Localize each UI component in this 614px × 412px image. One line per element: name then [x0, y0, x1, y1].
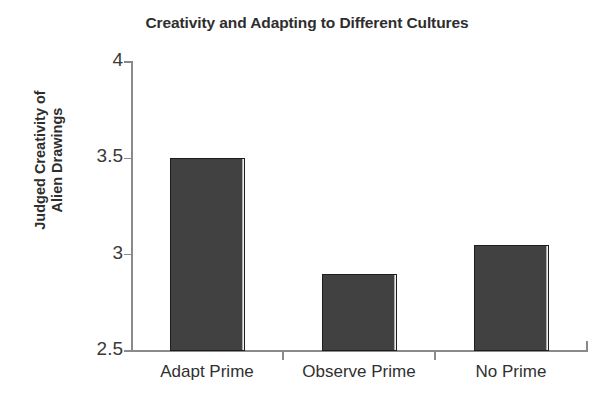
x-tick-label: No Prime — [431, 362, 591, 382]
y-tick-mark — [124, 254, 132, 256]
y-tick-label: 3.5 — [60, 145, 123, 167]
bar — [322, 274, 397, 351]
x-tick-mark — [282, 351, 284, 360]
chart-title: Creativity and Adapting to Different Cul… — [0, 14, 614, 32]
x-tick-label: Observe Prime — [279, 362, 439, 382]
y-tick-label: 2.5 — [60, 338, 123, 360]
x-tick-mark — [434, 351, 436, 360]
x-tick-label: Adapt Prime — [127, 362, 287, 382]
y-tick-label: 3 — [60, 242, 123, 264]
y-tick-mark — [124, 350, 132, 352]
bar — [170, 158, 245, 351]
y-tick-mark — [124, 61, 132, 63]
bar — [474, 245, 549, 351]
bar-chart-figure: Creativity and Adapting to Different Cul… — [0, 0, 614, 412]
x-axis-end-tick — [586, 341, 588, 352]
y-tick-mark — [124, 158, 132, 160]
y-axis-line — [131, 61, 133, 352]
y-tick-label: 4 — [60, 49, 123, 71]
